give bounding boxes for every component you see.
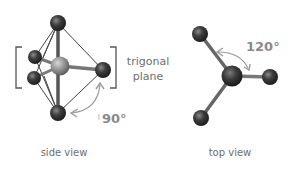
angle-label-120: 120° bbox=[246, 39, 280, 54]
atom-top bbox=[50, 15, 66, 31]
top-view: 120° top view bbox=[192, 26, 280, 158]
trigonal-plane-label-line2: plane bbox=[133, 70, 164, 83]
molecule-diagram: 90° trigonal plane side view 120° top vi… bbox=[0, 0, 292, 172]
side-view: 90° trigonal plane side view bbox=[16, 15, 169, 158]
right-bracket bbox=[110, 47, 116, 88]
atom-center bbox=[51, 57, 70, 76]
angle-label-90: 90° bbox=[102, 111, 127, 126]
atom-center bbox=[222, 66, 243, 87]
atom-left-upper bbox=[28, 50, 42, 64]
trigonal-plane-label-line1: trigonal bbox=[127, 55, 169, 68]
atom-bottom bbox=[50, 105, 66, 121]
side-view-caption: side view bbox=[41, 147, 88, 158]
atom-right bbox=[95, 62, 111, 78]
atom-left-lower bbox=[27, 71, 41, 85]
atom-upper-left bbox=[192, 26, 208, 42]
atom-lower-left bbox=[193, 110, 209, 126]
left-bracket bbox=[16, 47, 22, 88]
atom-right bbox=[262, 69, 278, 85]
top-view-caption: top view bbox=[209, 147, 252, 158]
